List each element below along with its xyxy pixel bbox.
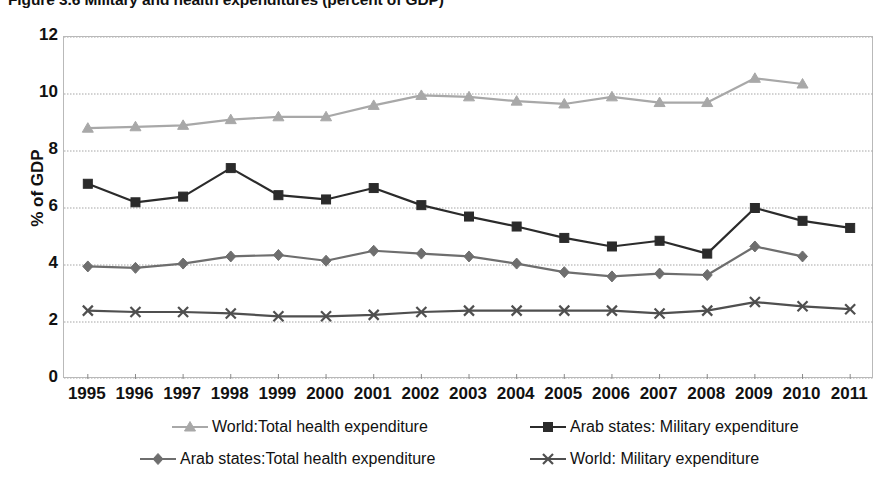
y-axis-tick-labels: 024681012 — [20, 0, 58, 482]
x-tick-label: 2005 — [536, 384, 590, 404]
square-marker — [544, 423, 553, 432]
diamond-marker — [153, 454, 163, 465]
square-marker — [83, 179, 92, 188]
triangle-marker — [749, 73, 760, 83]
square-marker — [607, 242, 616, 251]
legend-item-world-military[interactable]: World: Military expenditure — [528, 448, 759, 470]
diamond-marker — [273, 250, 283, 261]
triangle-marker-icon — [170, 420, 210, 434]
diamond-marker — [226, 251, 236, 262]
x-tick-label: 2011 — [822, 384, 876, 404]
legend-label: World:Total health expenditure — [212, 418, 428, 436]
diamond-marker — [464, 251, 474, 262]
y-tick-label: 8 — [28, 139, 58, 159]
x-tick-label: 2000 — [298, 384, 352, 404]
triangle-marker — [606, 91, 617, 101]
diamond-marker — [607, 271, 617, 282]
x-tick-label: 1999 — [250, 384, 304, 404]
square-marker — [798, 216, 807, 225]
x-tick-label: 2006 — [584, 384, 638, 404]
square-marker — [846, 223, 855, 232]
square-marker — [322, 195, 331, 204]
diamond-marker — [655, 268, 665, 279]
square-marker — [131, 198, 140, 207]
series-0 — [82, 73, 808, 132]
diamond-marker — [750, 241, 760, 252]
diamond-marker — [512, 258, 522, 269]
legend-label: Arab states: Military expenditure — [570, 418, 799, 436]
series-line — [88, 168, 850, 254]
square-marker — [226, 164, 235, 173]
square-marker — [703, 249, 712, 258]
chart-svg — [64, 37, 874, 379]
x-tick-label: 1995 — [60, 384, 114, 404]
y-tick-label: 10 — [28, 82, 58, 102]
series-line — [88, 78, 803, 128]
x-tick-label: 2004 — [489, 384, 543, 404]
x-tick-label: 2007 — [632, 384, 686, 404]
figure-container: Figure 3.6 Military and health expenditu… — [0, 0, 892, 482]
legend-label: Arab states:Total health expenditure — [180, 450, 435, 468]
x-tick-label: 2002 — [393, 384, 447, 404]
legend-item-arab-military[interactable]: Arab states: Military expenditure — [528, 416, 799, 438]
square-marker — [560, 233, 569, 242]
diamond-marker — [369, 245, 379, 256]
x-marker-icon — [528, 452, 568, 466]
square-marker — [750, 204, 759, 213]
square-marker — [179, 192, 188, 201]
diamond-marker — [416, 248, 426, 259]
square-marker — [369, 184, 378, 193]
x-tick-marks — [88, 374, 850, 379]
diamond-marker — [559, 267, 569, 278]
y-tick-label: 0 — [28, 367, 58, 387]
diamond-marker — [702, 269, 712, 280]
diamond-marker-icon — [138, 452, 178, 466]
x-tick-label: 1997 — [155, 384, 209, 404]
legend-item-world-health[interactable]: World:Total health expenditure — [170, 416, 428, 438]
x-tick-label: 2009 — [727, 384, 781, 404]
legend-label: World: Military expenditure — [570, 450, 759, 468]
y-tick-label: 4 — [28, 253, 58, 273]
y-tick-label: 12 — [28, 25, 58, 45]
square-marker — [465, 212, 474, 221]
square-marker — [512, 222, 521, 231]
x-axis-tick-labels: 1995199619971998199920002001200220032004… — [63, 384, 873, 408]
y-tick-label: 6 — [28, 196, 58, 216]
x-tick-label: 2003 — [441, 384, 495, 404]
series-2 — [83, 241, 808, 282]
diamond-marker — [178, 258, 188, 269]
series-1 — [83, 164, 854, 259]
legend-item-arab-health[interactable]: Arab states:Total health expenditure — [138, 448, 435, 470]
plot-area — [63, 36, 873, 378]
diamond-marker — [130, 262, 140, 273]
x-tick-label: 1996 — [107, 384, 161, 404]
chart-legend: World:Total health expenditure Arab stat… — [0, 414, 892, 482]
series-3 — [83, 297, 855, 321]
x-tick-label: 2008 — [679, 384, 733, 404]
x-tick-label: 2001 — [346, 384, 400, 404]
square-marker — [274, 191, 283, 200]
x-tick-label: 1998 — [203, 384, 257, 404]
x-tick-label: 2010 — [775, 384, 829, 404]
square-marker — [417, 201, 426, 210]
figure-title: Figure 3.6 Military and health expenditu… — [8, 0, 444, 9]
square-marker-icon — [528, 420, 568, 434]
square-marker — [655, 236, 664, 245]
y-tick-label: 2 — [28, 310, 58, 330]
diamond-marker — [798, 251, 808, 262]
diamond-marker — [83, 261, 93, 272]
